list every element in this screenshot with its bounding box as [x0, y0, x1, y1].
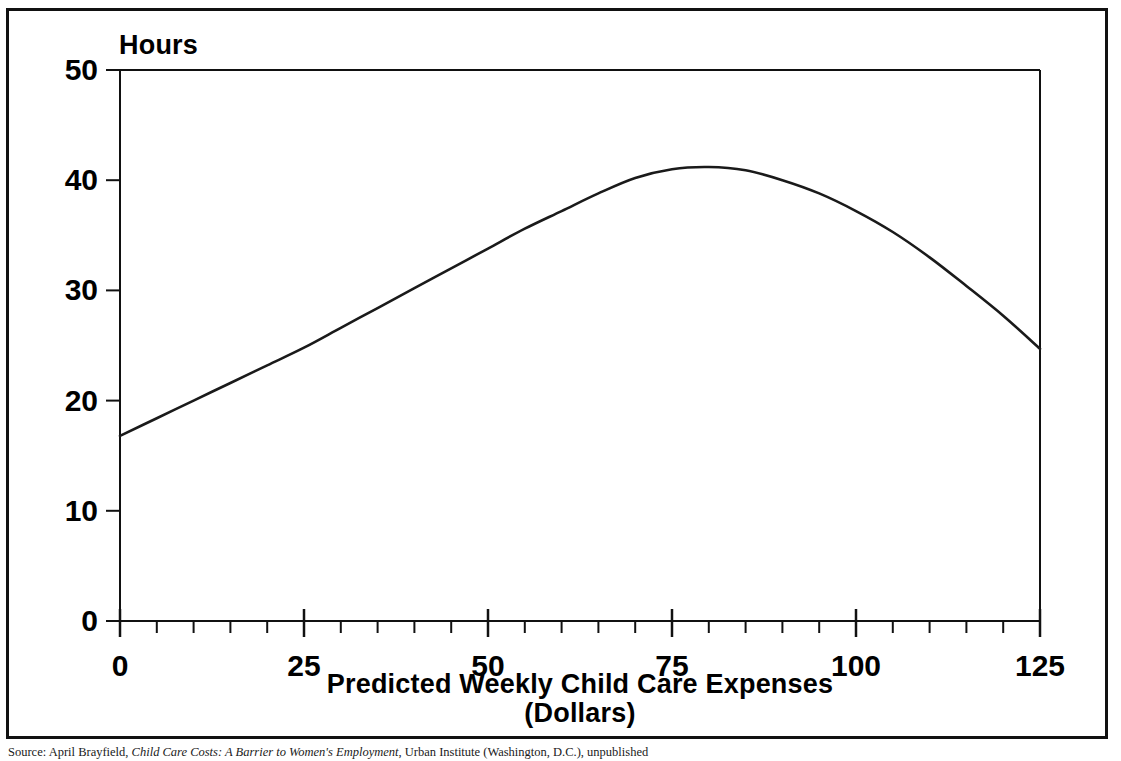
- chart-plot-area: Hours 01020304050 0255075100125: [9, 11, 1111, 742]
- source-work-title: Child Care Costs: A Barrier to Women's E…: [132, 745, 399, 759]
- plot-frame: [120, 70, 1040, 621]
- y-axis-title: Hours: [119, 30, 198, 60]
- y-axis-ticks: [106, 70, 120, 621]
- y-axis-tick-label: 40: [65, 163, 98, 196]
- line-chart-svg: Hours 01020304050 0255075100125: [9, 11, 1111, 742]
- x-axis-tick-label: 0: [112, 649, 129, 682]
- source-author: April Brayfield,: [49, 745, 129, 759]
- source-note: Source: April Brayfield, Child Care Cost…: [8, 745, 1113, 760]
- x-axis-tick-label: 125: [1015, 649, 1065, 682]
- y-axis-tick-label: 0: [81, 604, 98, 637]
- y-axis-tick-label: 30: [65, 273, 98, 306]
- x-axis-major-ticks: [120, 609, 1040, 637]
- x-axis-title-line1: Predicted Weekly Child Care Expenses: [327, 669, 833, 699]
- y-axis-tick-label: 20: [65, 384, 98, 417]
- y-axis-tick-labels: 01020304050: [65, 53, 98, 637]
- source-publisher: , Urban Institute (Washington, D.C.), un…: [399, 745, 649, 759]
- x-axis-minor-ticks: [157, 621, 1003, 633]
- figure-page: Hours 01020304050 0255075100125: [0, 0, 1121, 761]
- y-axis-tick-label: 50: [65, 53, 98, 86]
- source-label: Source:: [8, 745, 46, 759]
- y-axis-tick-label: 10: [65, 494, 98, 527]
- x-axis-tick-label: 25: [287, 649, 320, 682]
- x-axis-tick-label: 100: [831, 649, 881, 682]
- data-series-line: [120, 167, 1040, 436]
- figure-border-box: Hours 01020304050 0255075100125: [6, 8, 1108, 739]
- x-axis-title-line2: (Dollars): [524, 698, 635, 728]
